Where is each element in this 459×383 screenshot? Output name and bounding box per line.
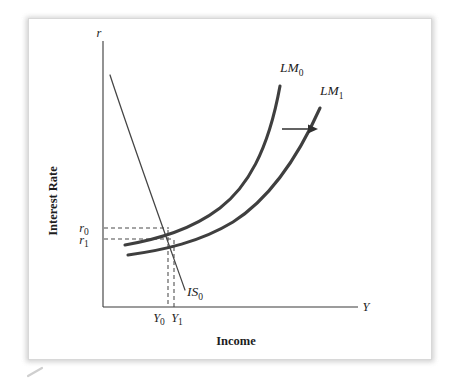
y0-tick-label: Y0 <box>153 311 165 327</box>
page-corner-mark-icon <box>26 366 48 378</box>
y-axis-title: Interest Rate <box>46 166 60 236</box>
y1-tick-label: Y1 <box>171 311 183 327</box>
equilibrium-guides <box>104 228 174 307</box>
x-axis-title: Income <box>216 334 256 348</box>
lm0-label: LM0 <box>279 60 304 78</box>
axis-group <box>103 41 358 307</box>
x-axis-symbol: Y <box>363 300 372 314</box>
is-lm-plot: r Y LM0 LM1 IS0 r0 <box>28 18 432 360</box>
lm1-curve <box>128 108 320 255</box>
lm1-label: LM1 <box>319 83 344 101</box>
is0-curve <box>110 75 185 290</box>
y-axis-symbol: r <box>97 26 102 40</box>
lm0-curve <box>125 86 280 245</box>
figure-root: r Y LM0 LM1 IS0 r0 <box>0 0 459 383</box>
is0-label: IS0 <box>186 284 203 302</box>
